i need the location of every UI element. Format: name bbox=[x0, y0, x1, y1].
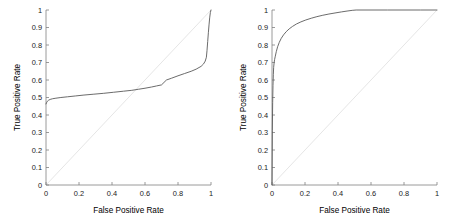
y-tick-label: 0 bbox=[38, 181, 42, 190]
x-axis-title: False Positive Rate bbox=[93, 206, 164, 215]
y-tick-label: 0.7 bbox=[32, 58, 42, 67]
right-roc-panel: 00.10.20.30.40.50.60.70.80.9100.20.40.60… bbox=[226, 0, 451, 224]
y-tick-label: 0.4 bbox=[32, 111, 42, 120]
y-tick-label: 0.2 bbox=[32, 146, 42, 155]
roc-curve bbox=[46, 10, 211, 104]
y-tick-label: 0.9 bbox=[32, 23, 42, 32]
y-tick-label: 0.9 bbox=[257, 23, 267, 32]
x-tick-label: 0.6 bbox=[140, 189, 150, 198]
x-tick-label: 0.8 bbox=[173, 189, 183, 198]
y-tick-label: 0.3 bbox=[257, 128, 267, 137]
x-tick-label: 0.2 bbox=[299, 189, 309, 198]
x-tick-label: 0 bbox=[44, 189, 48, 198]
x-tick-label: 1 bbox=[434, 189, 438, 198]
y-tick-label: 0.4 bbox=[257, 111, 267, 120]
chance-diagonal-line bbox=[272, 10, 437, 185]
roc-figure: 00.10.20.30.40.50.60.70.80.9100.20.40.60… bbox=[0, 0, 451, 224]
y-tick-label: 0.7 bbox=[257, 58, 267, 67]
y-tick-label: 0 bbox=[263, 181, 267, 190]
y-tick-label: 0.1 bbox=[257, 163, 267, 172]
y-tick-label: 0.1 bbox=[32, 163, 42, 172]
y-axis-title: True Positive Rate bbox=[239, 64, 248, 131]
y-tick-label: 1 bbox=[263, 6, 267, 15]
y-tick-label: 0.2 bbox=[257, 146, 267, 155]
y-tick-label: 0.5 bbox=[257, 93, 267, 102]
y-tick-label: 0.6 bbox=[257, 76, 267, 85]
x-tick-label: 0.2 bbox=[74, 189, 84, 198]
left-roc-svg: 00.10.20.30.40.50.60.70.80.9100.20.40.60… bbox=[0, 0, 226, 224]
y-tick-label: 0.8 bbox=[32, 41, 42, 50]
x-tick-label: 0.8 bbox=[398, 189, 408, 198]
left-roc-panel: 00.10.20.30.40.50.60.70.80.9100.20.40.60… bbox=[0, 0, 226, 224]
y-tick-label: 0.5 bbox=[32, 93, 42, 102]
left-plot-group: 00.10.20.30.40.50.60.70.80.9100.20.40.60… bbox=[13, 6, 213, 215]
x-tick-label: 0.6 bbox=[365, 189, 375, 198]
y-axis-title: True Positive Rate bbox=[13, 64, 22, 131]
right-roc-svg: 00.10.20.30.40.50.60.70.80.9100.20.40.60… bbox=[226, 0, 451, 224]
x-tick-label: 1 bbox=[209, 189, 213, 198]
y-tick-label: 0.8 bbox=[257, 41, 267, 50]
y-tick-label: 0.6 bbox=[32, 76, 42, 85]
chance-diagonal-line bbox=[46, 10, 211, 185]
right-plot-group: 00.10.20.30.40.50.60.70.80.9100.20.40.60… bbox=[239, 6, 439, 215]
x-axis-title: False Positive Rate bbox=[319, 206, 390, 215]
x-tick-label: 0 bbox=[269, 189, 273, 198]
x-tick-label: 0.4 bbox=[332, 189, 342, 198]
y-tick-label: 1 bbox=[38, 6, 42, 15]
y-tick-label: 0.3 bbox=[32, 128, 42, 137]
x-tick-label: 0.4 bbox=[107, 189, 117, 198]
